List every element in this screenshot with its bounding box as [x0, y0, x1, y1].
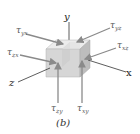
- figure-caption: (b): [56, 118, 70, 128]
- stress-cube: [46, 40, 90, 77]
- tau-zy-label: τzy: [51, 104, 63, 114]
- tau-subscript: zx: [12, 51, 19, 58]
- tau-subscript: xz: [122, 44, 129, 51]
- z-axis: [18, 68, 50, 82]
- tau-yz-label: τyz: [110, 21, 122, 31]
- y-axis-label: y: [64, 12, 70, 22]
- tau-subscript: yx: [21, 29, 28, 36]
- tau-yx-arrow: [26, 34, 63, 44]
- z-axis-label: z: [9, 78, 14, 88]
- tau-xz-label: τxz: [117, 41, 129, 51]
- x-axis-label: x: [126, 68, 132, 78]
- tau-subscript: xy: [82, 107, 89, 114]
- tau-xy-label: τxy: [77, 104, 89, 114]
- tau-subscript: yz: [115, 24, 122, 31]
- tau-yz-arrow: [77, 28, 110, 42]
- x-axis: [88, 60, 126, 72]
- tau-zx-label: τzx: [7, 48, 19, 58]
- stress-element-diagram: y x z τyx τyz τzx τxz τzy τxy (b): [0, 0, 140, 134]
- tau-subscript: zy: [56, 107, 63, 114]
- tau-yx-label: τyx: [16, 26, 28, 36]
